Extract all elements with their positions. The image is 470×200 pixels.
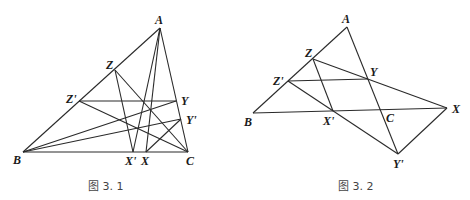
segment-AX' [133,28,160,152]
label-Z: Z [304,46,313,60]
segment-ZC [115,70,188,152]
label-Z-prime: Z' [272,74,284,88]
label-Z-prime: Z' [65,92,77,106]
label-A: A [341,12,350,26]
label-Y: Y [370,65,379,79]
label-X-prime: X' [124,154,137,168]
segment-BX [253,108,447,113]
label-C: C [186,154,195,168]
label-B: B [243,115,252,129]
segment-ZX' [313,59,333,111]
figure-3-1: A B C X' X Y Y' Z Z' 图 3. 1 [12,13,197,193]
segment-AY' [347,27,398,154]
label-Y-prime: Y' [186,113,197,127]
segment-ZX' [115,70,133,152]
caption-3-1: 图 3. 1 [88,180,124,193]
segment-AB [23,28,160,152]
label-Y-prime: Y' [393,157,404,171]
label-Z: Z [105,58,114,72]
caption-3-2: 图 3. 2 [338,180,374,193]
label-Y: Y [181,94,190,108]
segment-Z'C [79,101,188,152]
segment-AC [160,28,188,152]
segment-XY' [398,108,447,154]
figure-3-2: A B C X X' Y Y' Z Z' 图 3. 2 [243,12,461,193]
label-A: A [154,13,163,27]
segment-AX [146,28,160,152]
segment-BY [23,101,176,152]
segment-ZX [313,59,447,108]
label-B: B [12,153,21,167]
label-X: X [140,154,150,168]
diagram-canvas: A B C X' X Y Y' Z Z' 图 3. 1 A B C X X' Y… [0,0,470,200]
label-C: C [386,111,395,125]
segment-BY' [23,119,181,152]
label-X: X [451,102,461,116]
segment-AB [253,27,347,113]
segment-Z'Y [288,79,368,81]
segment-Z'Y' [288,81,398,154]
label-X-prime: X' [322,114,335,128]
